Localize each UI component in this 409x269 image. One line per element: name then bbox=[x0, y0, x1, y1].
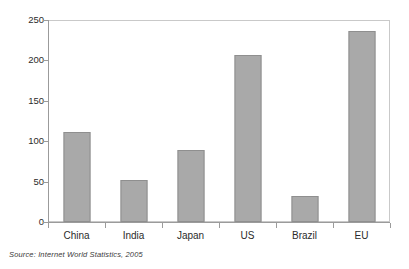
x-axis-tick-label-eu: EU bbox=[333, 230, 390, 242]
bar-india[interactable] bbox=[120, 180, 147, 222]
figure: 050100150200250 ChinaIndiaJapanUSBrazilE… bbox=[0, 0, 409, 269]
bar-slot bbox=[48, 20, 105, 222]
x-axis-tick-mark bbox=[48, 223, 49, 228]
source-note: Source: Internet World Statistics, 2005 bbox=[9, 250, 143, 260]
x-axis-tick-label-china: China bbox=[48, 230, 105, 242]
bar-series bbox=[48, 20, 390, 222]
y-axis-tick-label: 100 bbox=[4, 136, 44, 146]
bar-chart: 050100150200250 ChinaIndiaJapanUSBrazilE… bbox=[0, 0, 409, 245]
bar-us[interactable] bbox=[234, 55, 261, 222]
bar-slot bbox=[219, 20, 276, 222]
bar-slot bbox=[333, 20, 390, 222]
x-axis-tick-label-japan: Japan bbox=[162, 230, 219, 242]
bar-japan[interactable] bbox=[177, 150, 204, 222]
x-axis-tick-mark bbox=[219, 223, 220, 228]
x-axis-tick-mark bbox=[105, 223, 106, 228]
bar-slot bbox=[276, 20, 333, 222]
bar-slot bbox=[105, 20, 162, 222]
bar-slot bbox=[162, 20, 219, 222]
x-axis-tick-mark bbox=[276, 223, 277, 228]
x-axis-tick-mark bbox=[390, 223, 391, 228]
x-axis-tick-label-india: India bbox=[105, 230, 162, 242]
bar-eu[interactable] bbox=[348, 31, 375, 222]
y-axis-tick-label: 150 bbox=[4, 96, 44, 106]
x-axis-tick-mark bbox=[162, 223, 163, 228]
x-axis-tick-label-brazil: Brazil bbox=[276, 230, 333, 242]
x-axis-tick-label-us: US bbox=[219, 230, 276, 242]
x-axis-tick-mark bbox=[333, 223, 334, 228]
y-axis-tick-label: 200 bbox=[4, 55, 44, 65]
y-axis-labels: 050100150200250 bbox=[0, 0, 44, 245]
bar-china[interactable] bbox=[63, 132, 90, 222]
bar-brazil[interactable] bbox=[291, 196, 318, 222]
y-axis-tick-label: 250 bbox=[4, 15, 44, 25]
y-axis-tick-label: 0 bbox=[4, 217, 44, 227]
y-axis-tick-label: 50 bbox=[4, 177, 44, 187]
